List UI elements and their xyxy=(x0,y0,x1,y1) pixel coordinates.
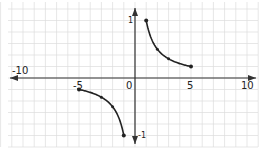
data-point xyxy=(111,105,114,108)
data-point xyxy=(156,48,159,51)
x-tick-label-0: 0 xyxy=(126,81,132,91)
y-tick-label-neg1: -1 xyxy=(138,131,146,141)
x-tick-label-5: 5 xyxy=(187,81,193,91)
data-point xyxy=(144,19,148,23)
data-point xyxy=(122,134,126,138)
data-point xyxy=(167,57,170,60)
y-axis xyxy=(132,8,138,144)
data-point xyxy=(100,96,103,99)
data-point xyxy=(189,65,193,69)
x-axis xyxy=(10,75,256,81)
y-tick-label-1: 1 xyxy=(128,16,133,26)
x-tick-label-10: 10 xyxy=(241,81,254,91)
x-tick-label-neg5: -5 xyxy=(73,81,83,91)
x-tick-label-neg10: -10 xyxy=(12,66,28,76)
